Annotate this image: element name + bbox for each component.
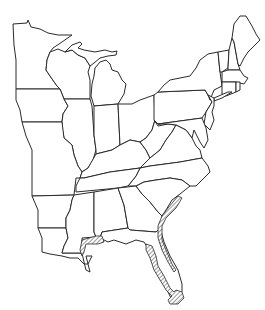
map-svg xyxy=(0,0,265,310)
state-indiana xyxy=(94,104,120,154)
state-michigan-lower xyxy=(91,60,126,106)
eastern-us-map: Outline map of the eastern United States xyxy=(0,0,265,310)
state-pennsylvania xyxy=(154,90,212,124)
state-vermont xyxy=(218,50,229,72)
state-rhode-island xyxy=(236,82,240,92)
hatched-gulf-coast-ms-al xyxy=(80,236,104,256)
state-iowa xyxy=(16,89,68,122)
